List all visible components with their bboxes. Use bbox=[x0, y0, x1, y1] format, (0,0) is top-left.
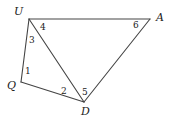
vertex-label-q: Q bbox=[7, 79, 16, 92]
segment-ud bbox=[29, 19, 84, 102]
vertex-label-u: U bbox=[14, 5, 24, 18]
angle-label-4: 4 bbox=[40, 22, 46, 32]
vertex-label-a: A bbox=[155, 11, 164, 24]
angle-labels: 123456 bbox=[25, 20, 139, 97]
angle-label-1: 1 bbox=[25, 66, 31, 76]
angle-label-3: 3 bbox=[29, 35, 35, 45]
angle-label-6: 6 bbox=[133, 20, 139, 30]
quadrilateral-diagram: UAQD 123456 bbox=[0, 0, 175, 120]
angle-label-5: 5 bbox=[82, 87, 88, 97]
angle-label-2: 2 bbox=[61, 86, 67, 96]
segment-ad bbox=[84, 19, 150, 102]
segment-dq bbox=[21, 82, 84, 102]
vertex-label-d: D bbox=[80, 105, 90, 118]
